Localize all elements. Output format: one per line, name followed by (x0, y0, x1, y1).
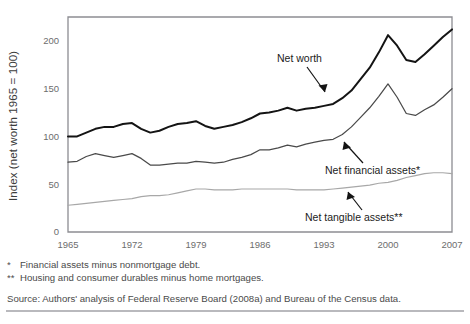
data-series-group (68, 29, 452, 205)
x-tick-label: 2007 (441, 239, 462, 250)
chart-annotations: Net worth Net financial assets* Net tang… (277, 52, 420, 223)
line-chart: 050100150200 196519721979198619932000200… (0, 0, 470, 260)
footnote-row: ** Housing and consumer durables minus h… (7, 271, 463, 284)
source-line: Source: Authors' analysis of Federal Res… (7, 292, 463, 305)
x-tick-labels: 1965197219791986199320002007 (57, 239, 462, 250)
y-tick-label: 100 (43, 131, 59, 142)
footnotes-block: * Financial assets minus nonmortgage deb… (7, 258, 463, 305)
x-tick-label: 1986 (249, 239, 270, 250)
footnote-mark: ** (7, 271, 20, 284)
x-tick-label: 1979 (185, 239, 206, 250)
bottom-divider (6, 310, 464, 312)
annotation-net-tangible-assets: Net tangible assets** (305, 211, 402, 223)
y-tick-label: 0 (54, 226, 59, 237)
footnote-row: * Financial assets minus nonmortgage deb… (7, 258, 463, 271)
y-tick-label: 50 (48, 179, 59, 190)
y-tick-label: 200 (43, 35, 59, 46)
x-tick-label: 2000 (377, 239, 398, 250)
series-line-net-worth (68, 29, 452, 136)
figure-container: Index (net worth 1965 = 100) 05010015020… (0, 0, 470, 324)
y-tick-label: 150 (43, 83, 59, 94)
x-tick-label: 1993 (313, 239, 334, 250)
annotation-net-worth: Net worth (277, 52, 322, 64)
annotation-net-financial-assets: Net financial assets* (325, 164, 420, 176)
footnote-text: Housing and consumer durables minus home… (20, 271, 463, 284)
footnote-text: Financial assets minus nonmortgage debt. (20, 258, 463, 271)
x-tick-label: 1965 (57, 239, 78, 250)
y-tick-labels: 050100150200 (43, 35, 59, 237)
x-tick-label: 1972 (121, 239, 142, 250)
footnote-mark: * (7, 258, 20, 271)
series-line-net-tangible-assets (68, 173, 452, 205)
